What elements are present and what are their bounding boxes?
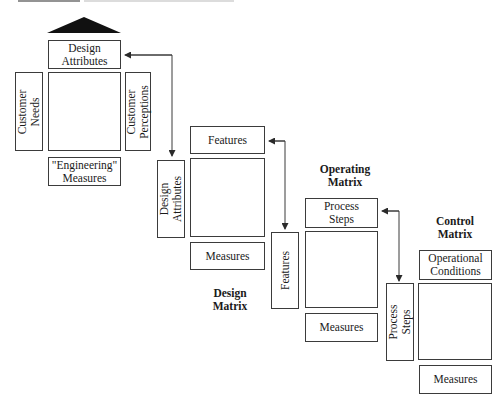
design-matrix-title: Design Matrix <box>208 287 252 313</box>
design-left-line-1: Design <box>158 176 171 222</box>
design-title-line-2: Matrix <box>208 300 252 313</box>
operating-relationship-matrix <box>305 231 378 308</box>
design-relationship-matrix <box>190 158 265 237</box>
control-top-operational-conditions: Operational Conditions <box>419 250 492 280</box>
operating-bottom-measures: Measures <box>305 313 378 342</box>
hoq-right-customer-perceptions: Customer Perceptions <box>125 72 151 151</box>
hoq-left-line-1: Customer <box>16 89 29 134</box>
figure-caption-clipped <box>18 0 238 4</box>
hoq-bottom-line-2: Measures <box>52 172 118 185</box>
operating-bottom-label: Measures <box>319 321 363 334</box>
hoq-right-line-1: Customer <box>125 85 138 139</box>
control-top-line-1: Operational <box>428 252 482 265</box>
operating-top-line-2: Steps <box>324 213 359 226</box>
design-top-label: Features <box>208 134 247 147</box>
operating-title-line-2: Matrix <box>315 176 375 189</box>
control-bottom-label: Measures <box>433 373 477 386</box>
caption-figure-number <box>18 0 80 2</box>
control-left-process-steps: Process Steps <box>386 283 414 361</box>
hoq-top-design-attributes: Design Attributes <box>48 40 121 69</box>
hoq-top-line-2: Attributes <box>62 55 108 68</box>
control-left-line-2: Steps <box>400 304 413 339</box>
house-roof-icon <box>47 17 121 33</box>
control-title-line-1: Control <box>429 215 481 228</box>
operating-left-label: Features <box>279 251 291 290</box>
operating-top-process-steps: Process Steps <box>305 198 378 228</box>
control-matrix-title: Control Matrix <box>429 215 481 241</box>
operating-matrix-title: Operating Matrix <box>315 163 375 189</box>
caption-text <box>84 0 234 2</box>
control-left-line-1: Process <box>387 304 400 339</box>
control-bottom-measures: Measures <box>419 365 492 394</box>
design-left-line-2: Attributes <box>171 176 184 222</box>
design-top-features: Features <box>190 126 265 154</box>
hoq-left-customer-needs: Customer Needs <box>15 72 43 151</box>
control-relationship-matrix <box>418 283 492 360</box>
connector-features <box>269 141 285 229</box>
design-bottom-measures: Measures <box>190 242 265 270</box>
hoq-top-line-1: Design <box>62 42 108 55</box>
control-title-line-2: Matrix <box>429 228 481 241</box>
hoq-left-line-2: Needs <box>29 89 42 134</box>
hoq-relationship-matrix <box>48 72 121 151</box>
design-left-design-attributes: Design Attributes <box>157 160 185 238</box>
hoq-bottom-engineering-measures: "Engineering" Measures <box>48 157 121 186</box>
control-top-line-2: Conditions <box>428 265 482 278</box>
design-title-line-1: Design <box>208 287 252 300</box>
connector-process-steps <box>382 211 399 281</box>
operating-title-line-1: Operating <box>315 163 375 176</box>
operating-top-line-1: Process <box>324 200 359 213</box>
operating-left-features: Features <box>271 232 299 309</box>
design-bottom-label: Measures <box>205 250 249 263</box>
hoq-bottom-line-1: "Engineering" <box>52 159 118 172</box>
hoq-right-line-2: Perceptions <box>138 85 151 139</box>
